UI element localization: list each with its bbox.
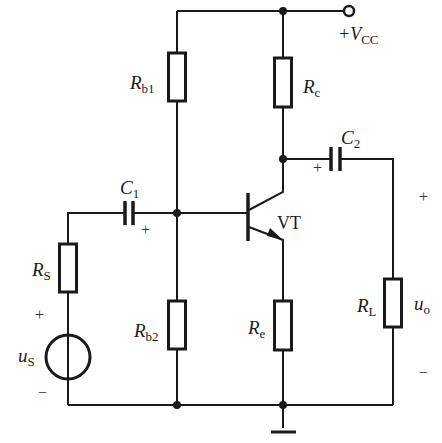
- resistor-rs-icon: [60, 244, 77, 292]
- c1-plus-sign: +: [141, 221, 150, 238]
- ground-rail: [68, 401, 393, 432]
- junction-dot-icon: [173, 401, 181, 409]
- uo-minus-sign: −: [419, 364, 428, 381]
- uo-label: uo: [414, 293, 430, 317]
- rc-label: Rc: [302, 76, 321, 100]
- rb2-branch: Rb2: [133, 301, 186, 349]
- rb1-label: Rb1: [129, 72, 155, 96]
- resistor-re-icon: [275, 301, 292, 350]
- vt-label: VT: [277, 213, 301, 233]
- uo-plus-sign: +: [419, 188, 428, 205]
- us-plus-sign: +: [35, 306, 44, 323]
- amplifier-circuit: +VCC Rb1 Rb2 Rc C2 + RL: [0, 0, 442, 443]
- re-label: Re: [247, 317, 266, 341]
- vcc-label: +VCC: [338, 24, 379, 47]
- input-branch: C1 +: [68, 177, 247, 244]
- vcc-rail: +VCC: [177, 6, 379, 47]
- c2-plus-sign: +: [313, 159, 322, 176]
- junction-dot-icon: [173, 209, 181, 217]
- us-minus-sign: −: [38, 384, 47, 401]
- rs-label: RS: [31, 259, 51, 283]
- re-branch: Re: [247, 301, 292, 428]
- c1-label: C1: [120, 177, 139, 201]
- c2-label: C2: [341, 127, 360, 151]
- vcc-terminal-icon: [344, 6, 354, 16]
- resistor-rc-icon: [275, 58, 292, 107]
- rl-label: RL: [356, 295, 377, 319]
- junction-dot-icon: [279, 401, 287, 409]
- resistor-rb2-icon: [169, 301, 186, 349]
- rc-branch: Rc: [249, 11, 321, 210]
- resistor-rl-icon: [385, 279, 402, 327]
- c2-output-branch: C2 + RL uo + −: [283, 127, 430, 405]
- resistor-rb1-icon: [169, 53, 186, 101]
- transistor-vt: VT: [248, 193, 301, 301]
- us-label: uS: [18, 345, 35, 369]
- rb2-label: Rb2: [133, 320, 159, 344]
- source-branch: RS + − uS: [18, 244, 90, 405]
